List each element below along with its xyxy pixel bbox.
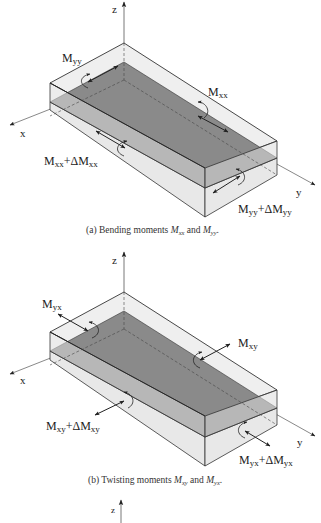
figure-a-bending-moments: z x y xyxy=(10,2,315,236)
label-mxx-delta: Mxx+ΔMxx xyxy=(44,154,98,169)
caption-a: (a) Bending moments Mxx and Myy. xyxy=(86,225,219,236)
figure-b-twisting-moments: z x y xyxy=(10,252,315,486)
x-axis-label: x xyxy=(20,374,26,386)
z-axis-label: z xyxy=(112,3,117,15)
label-myy: Myy xyxy=(62,51,82,66)
label-myx-delta: Myx+ΔMyx xyxy=(239,453,293,468)
label-mxy: Mxy xyxy=(238,336,258,351)
x-axis-label: x xyxy=(20,127,26,139)
z-axis-label: z xyxy=(112,254,117,266)
z-axis-label: z xyxy=(111,505,115,515)
caption-b: (b) Twisting moments Mxy and Myx. xyxy=(88,475,222,486)
label-myy-delta: Myy+ΔMyy xyxy=(238,202,292,217)
y-axis-label: y xyxy=(296,186,302,198)
label-mxx: Mxx xyxy=(208,85,228,100)
plate-moment-diagrams: z x y xyxy=(0,0,321,523)
label-mxy-delta: Mxy+ΔMxy xyxy=(46,419,100,434)
figure-c-partial: z xyxy=(111,500,121,523)
label-myx: Myx xyxy=(42,297,62,312)
y-axis-label: y xyxy=(297,436,303,448)
